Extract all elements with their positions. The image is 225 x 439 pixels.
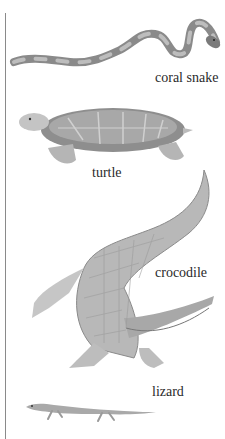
lizard-illustration [24,395,159,425]
label-coral-snake: coral snake [155,70,218,86]
page-margin-rule [5,13,6,439]
coral-snake-illustration [10,12,220,72]
turtle-illustration [18,100,193,170]
label-crocodile: crocodile [155,265,207,281]
